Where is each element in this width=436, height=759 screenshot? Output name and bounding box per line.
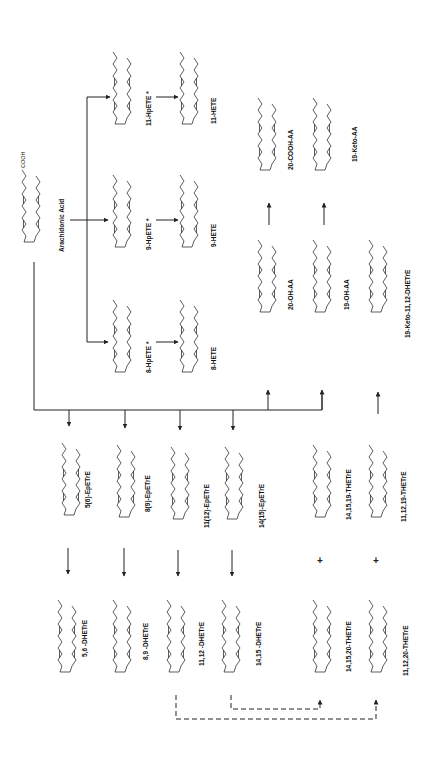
label-9-hete: 9-HETE	[210, 224, 217, 247]
label-19-keto-11-12-dhetre: 19-Keto-11,12-DHETrE	[404, 270, 411, 338]
pathway-diagram: COOH	[0, 0, 436, 759]
label-11-hete: 11-HETE	[210, 98, 217, 124]
label-11-hpete: 11-HpETE *	[145, 91, 152, 126]
20-cooh-aa-structure	[258, 98, 276, 170]
14-15-dhetre-structure	[222, 600, 240, 672]
label-19-keto-aa: 19-Keto-AA	[351, 127, 358, 162]
label-14-15-19-thetre: 14,15,19-THETrE	[345, 469, 352, 520]
9-hpete-structure	[113, 175, 131, 247]
11-12-epetre-structure	[171, 447, 189, 519]
8-9-dhetre-structure	[113, 600, 131, 672]
label-8-hete: 8-HETE	[210, 347, 217, 370]
19-keto-11-12-dhetre-structure	[369, 240, 387, 312]
11-12-20-thetre-structure	[369, 600, 387, 672]
arachidonic-acid-structure: COOH	[20, 151, 40, 242]
label-20-oh-aa: 20-OH-AA	[287, 279, 294, 310]
label-arachidonic-acid: Arachidonic Acid	[58, 199, 65, 252]
19-keto-aa-structure	[313, 98, 331, 170]
19-oh-aa-structure	[313, 240, 331, 312]
8-hete-structure	[180, 300, 198, 372]
label-14-15-dhetre: 14,15 -DHETrE	[255, 622, 262, 666]
label-19-oh-aa: 19-OH-AA	[343, 279, 350, 310]
11-12-19-thetre-structure	[369, 445, 387, 517]
11-hpete-structure	[113, 52, 131, 124]
11-hete-structure	[180, 52, 198, 124]
plus-sign: +	[373, 555, 379, 566]
svg-text:COOH: COOH	[20, 151, 26, 168]
dashed-connectors	[176, 695, 376, 719]
label-20-cooh-aa: 20-COOH-AA	[287, 130, 294, 170]
label-8-hpete: 8-HpETE *	[145, 342, 152, 373]
label-8-9-epetre: 8(9)-EpETrE	[144, 475, 151, 512]
8-hpete-structure	[113, 300, 131, 372]
20-oh-aa-structure	[258, 240, 276, 312]
label-14-15-epetre: 14(15)-EpETrE	[258, 484, 265, 528]
11-12-dhetre-structure	[167, 600, 185, 672]
label-14-15-20-thetre: 14,15,20-THETrE	[345, 621, 352, 672]
14-15-epetre-structure	[225, 447, 243, 519]
9-hete-structure	[180, 175, 198, 247]
label-5-6-epetre: 5(6)-EpETrE	[84, 471, 91, 508]
label-9-hpete: 9-HpETE *	[145, 219, 152, 250]
label-11-12-dhetre: 11,12 -DHETrE	[198, 622, 205, 666]
plus-sign: +	[317, 555, 323, 566]
14-15-20-thetre-structure	[313, 600, 331, 672]
14-15-19-thetre-structure	[313, 445, 331, 517]
label-11-12-20-thetre: 11,12,20-THETrE	[402, 625, 409, 676]
5-6-epetre-structure	[62, 443, 80, 515]
label-11-12-epetre: 11(12)-EpETrE	[203, 484, 210, 528]
label-8-9-dhetre: 8,9 -DHETrE	[142, 623, 149, 660]
label-5-6-dhetre: 5,6 -DHETrE	[81, 620, 88, 657]
5-6-dhetre-structure	[58, 600, 76, 672]
8-9-epetre-structure	[117, 445, 135, 517]
label-11-12-19-thetre: 11,12,19-THETrE	[400, 471, 407, 522]
